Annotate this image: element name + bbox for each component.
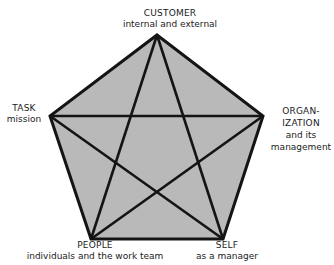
organization-title-line1: ORGAN- — [268, 105, 334, 117]
node-customer-label: CUSTOMER internal and external — [100, 8, 240, 30]
self-title: SELF — [187, 240, 267, 251]
task-title: TASK — [2, 103, 46, 114]
node-task-label: TASK mission — [2, 103, 46, 125]
node-self-label: SELF as a manager — [187, 240, 267, 262]
customer-subtitle: internal and external — [100, 19, 240, 30]
people-subtitle: individuals and the work team — [10, 251, 180, 262]
node-organization-label: ORGAN- IZATION and its management — [268, 105, 334, 153]
self-subtitle: as a manager — [187, 251, 267, 262]
people-title: PEOPLE — [10, 240, 180, 251]
pentagon-outline — [50, 35, 263, 239]
organization-title-line2: IZATION — [268, 117, 334, 129]
organization-subtitle-line2: management — [268, 141, 334, 153]
organization-subtitle-line1: and its — [268, 129, 334, 141]
customer-title: CUSTOMER — [100, 8, 240, 19]
task-subtitle: mission — [2, 114, 46, 125]
node-people-label: PEOPLE individuals and the work team — [10, 240, 180, 262]
